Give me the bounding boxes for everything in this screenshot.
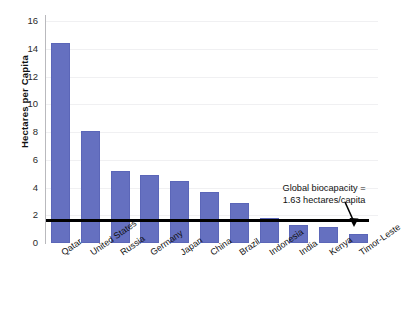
y-axis-tick-label: 12 xyxy=(20,72,38,82)
y-axis-tick-label: 8 xyxy=(20,127,38,137)
gridline xyxy=(46,21,378,22)
annotation-arrow-icon xyxy=(339,200,365,230)
y-axis-tick-label: 10 xyxy=(20,99,38,109)
bar-germany xyxy=(140,175,159,243)
annotation-line-2: 1.63 hectares/capita xyxy=(262,195,386,207)
global-biocapacity-annotation: Global biocapacity = 1.63 hectares/capit… xyxy=(262,183,386,206)
y-axis-tick-label: 14 xyxy=(20,44,38,54)
annotation-line-1: Global biocapacity = xyxy=(262,183,386,195)
y-axis-tick-label: 2 xyxy=(20,210,38,220)
gridline xyxy=(46,77,378,78)
bar-kenya xyxy=(319,227,338,243)
y-axis-tick-label: 4 xyxy=(20,183,38,193)
y-axis-spine xyxy=(45,15,46,244)
bar-brazil xyxy=(230,203,249,243)
bar-indonesia xyxy=(260,218,279,243)
global-biocapacity-reference-line xyxy=(46,219,369,221)
gridline xyxy=(46,104,378,105)
gridline xyxy=(46,49,378,50)
bar-qatar xyxy=(51,43,70,243)
y-axis-tick-label: 6 xyxy=(20,155,38,165)
y-axis-tick-label: 16 xyxy=(20,16,38,26)
y-axis-tick-label: 0 xyxy=(20,238,38,248)
bar-united-states xyxy=(81,131,100,243)
bar-china xyxy=(200,192,219,243)
